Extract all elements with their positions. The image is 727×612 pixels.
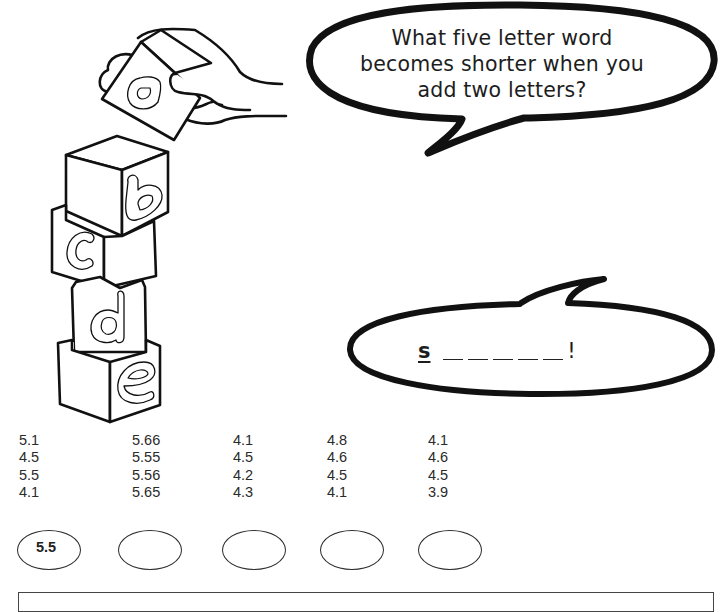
answer-oval-value: 5.5: [36, 539, 56, 555]
number-value: 5.56: [132, 467, 160, 484]
answer-end-mark: !: [567, 339, 575, 363]
answer-oval[interactable]: [320, 530, 384, 570]
answer-oval[interactable]: [222, 530, 286, 570]
number-value: 4.5: [233, 449, 253, 466]
riddle-line: add two letters?: [352, 77, 652, 103]
number-column: 4.8 4.6 4.5 4.1: [327, 432, 347, 501]
number-value: 5.1: [19, 432, 39, 449]
number-value: 5.55: [132, 449, 160, 466]
number-column: 5.1 4.5 5.5 4.1: [19, 432, 39, 501]
riddle-line: becomes shorter when you: [352, 51, 652, 77]
answer-oval[interactable]: 5.5: [17, 530, 81, 570]
number-value: 5.5: [19, 467, 39, 484]
number-value: 3.9: [428, 484, 448, 501]
answer-speech-bubble: [350, 279, 712, 394]
answer-blank[interactable]: [493, 341, 513, 360]
number-value: 4.1: [428, 432, 448, 449]
answer-blank[interactable]: [443, 341, 463, 360]
riddle-line: What five letter word: [352, 25, 652, 51]
number-value: 4.6: [327, 449, 347, 466]
block-d: [72, 277, 146, 352]
answer-oval[interactable]: [118, 530, 182, 570]
number-value: 4.6: [428, 449, 448, 466]
number-value: 4.2: [233, 467, 253, 484]
number-value: 4.8: [327, 432, 347, 449]
number-value: 4.1: [327, 484, 347, 501]
answer-blank[interactable]: [518, 341, 538, 360]
number-value: 4.5: [327, 467, 347, 484]
number-value: 4.1: [233, 432, 253, 449]
answer-blank[interactable]: [543, 341, 563, 360]
answer-blank[interactable]: [468, 341, 488, 360]
number-column: 4.1 4.6 4.5 3.9: [428, 432, 448, 501]
answer-oval[interactable]: [418, 530, 482, 570]
number-value: 4.5: [428, 467, 448, 484]
riddle-question: What five letter word becomes shorter wh…: [352, 25, 652, 103]
number-value: 5.65: [132, 484, 160, 501]
number-value: 4.1: [19, 484, 39, 501]
number-value: 4.3: [233, 484, 253, 501]
hand-holding-block-a: [100, 29, 286, 140]
number-column: 5.66 5.55 5.56 5.65: [132, 432, 160, 501]
number-value: 4.5: [19, 449, 39, 466]
number-column: 4.1 4.5 4.2 4.3: [233, 432, 253, 501]
work-area-box: [18, 592, 714, 612]
answer-first-letter: s: [418, 339, 431, 363]
riddle-answer: s !: [418, 339, 576, 363]
number-value: 5.66: [132, 432, 160, 449]
